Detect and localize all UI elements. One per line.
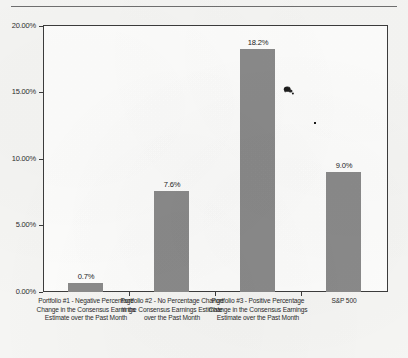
bar-portfolio-1[interactable] (68, 283, 103, 292)
y-tick-mark-15 (39, 92, 43, 93)
bar-value-portfolio-3: 18.2% (228, 38, 288, 47)
bar-portfolio-3[interactable] (240, 49, 275, 292)
y-tick-label: 10.00% (12, 154, 36, 163)
y-tick-mark-0 (39, 292, 43, 293)
y-tick-mark-10 (39, 159, 43, 160)
x-tick-mark-3 (301, 292, 302, 296)
bar-value-sp500: 9.0% (314, 161, 374, 170)
y-tick-label: 0.00% (16, 287, 36, 296)
bar-sp500[interactable] (326, 172, 361, 292)
bar-portfolio-2[interactable] (154, 191, 189, 292)
y-tick-label: 15.00% (12, 87, 36, 96)
bar-value-portfolio-1: 0.7% (56, 272, 116, 281)
x-tick-mark-2 (215, 292, 216, 296)
top-horizontal-rule (11, 6, 397, 7)
y-tick-label: 20.00% (12, 21, 36, 30)
bar-value-portfolio-2: 7.6% (142, 180, 202, 189)
x-tick-mark-1 (129, 292, 130, 296)
y-tick-label: 5.00% (16, 220, 36, 229)
y-tick-mark-20 (39, 26, 43, 27)
category-label-sp500: S&P 500 (292, 297, 396, 306)
y-tick-mark-5 (39, 225, 43, 226)
